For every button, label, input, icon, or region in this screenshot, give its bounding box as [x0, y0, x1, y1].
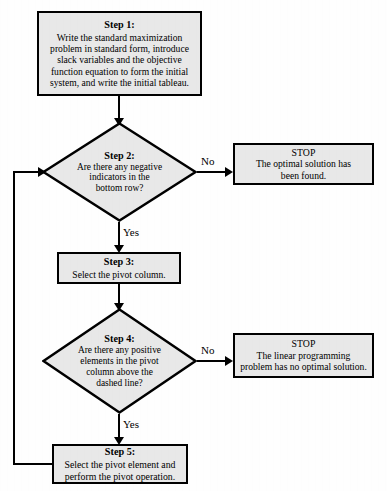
- node-step4[interactable]: Step 4: Are there any positive elements …: [42, 308, 197, 414]
- connector-step4-stop2: [197, 360, 228, 362]
- node-step3[interactable]: Step 3: Select the pivot column.: [57, 252, 181, 284]
- node-stop2[interactable]: STOP The linear programming problem has …: [233, 333, 374, 378]
- node-step5-title: Step 5:: [105, 446, 135, 458]
- node-step2[interactable]: Step 2: Are there any negative indicator…: [42, 122, 197, 222]
- flowchart-canvas: Step 1: Write the standard maximization …: [0, 0, 387, 491]
- node-stop1[interactable]: STOP The optimal solution has been found…: [233, 143, 374, 185]
- node-step3-body: Select the pivot column.: [72, 269, 165, 280]
- diamond-shape-step4: [42, 308, 197, 414]
- arrowhead-loop-step2: [38, 167, 46, 177]
- connector-loop-left: [13, 171, 15, 465]
- node-stop2-body: The linear programming problem has no op…: [240, 350, 367, 373]
- node-step5[interactable]: Step 5: Select the pivot element and per…: [52, 444, 188, 484]
- edge-label-yes-step2: Yes: [123, 227, 139, 238]
- node-step5-body: Select the pivot element and perform the…: [65, 459, 176, 482]
- node-step1[interactable]: Step 1: Write the standard maximization …: [37, 11, 202, 96]
- node-stop1-title: STOP: [292, 147, 316, 159]
- connector-loop-bottom: [13, 463, 53, 465]
- node-step1-title: Step 1:: [104, 19, 134, 31]
- arrowhead-step2-stop1: [225, 167, 233, 177]
- edge-label-yes-step4: Yes: [123, 419, 139, 430]
- arrowhead-step4-stop2: [225, 356, 233, 366]
- node-stop2-title: STOP: [292, 338, 316, 350]
- edge-label-no-step2: No: [201, 156, 214, 167]
- node-step1-body: Write the standard maximization problem …: [50, 32, 189, 89]
- edge-label-no-step4: No: [201, 345, 214, 356]
- diamond-shape-step2: [42, 122, 197, 222]
- node-step3-title: Step 3:: [104, 256, 134, 268]
- connector-step2-stop1: [197, 171, 228, 173]
- node-stop1-body: The optimal solution has been found.: [256, 158, 351, 181]
